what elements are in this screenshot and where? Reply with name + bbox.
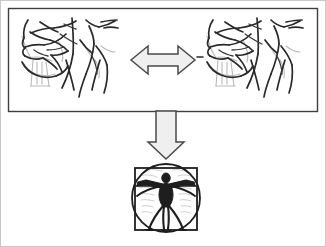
- diagram-svg: [0, 0, 326, 247]
- vitruvian-feet: [146, 230, 186, 231]
- diagram-canvas: Bidirectional comparison of two anatomic…: [0, 0, 326, 247]
- vitruvian-torso: [159, 183, 173, 207]
- vitruvian-head: [162, 173, 170, 183]
